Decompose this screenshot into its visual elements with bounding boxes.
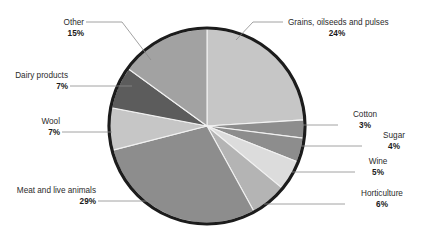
pie-slices-group: [110, 29, 304, 223]
slice-value-sugar: 4%: [388, 142, 401, 151]
slice-label-sugar: Sugar: [383, 131, 405, 140]
pie-chart-figure: Other 15% Grains, oilseeds and pulses 24…: [0, 0, 434, 237]
slice-value-dairy: 7%: [56, 82, 69, 91]
slice-label-wool: Wool: [41, 117, 60, 126]
slice-value-horticulture: 6%: [376, 200, 389, 209]
slice-label-other: Other: [64, 18, 85, 27]
slice-label-wine: Wine: [369, 157, 388, 166]
slice-value-cotton: 3%: [359, 121, 372, 130]
slice-label-grains: Grains, oilseeds and pulses: [288, 18, 389, 27]
pie-chart-canvas: Other 15% Grains, oilseeds and pulses 24…: [0, 0, 434, 237]
slice-value-grains: 24%: [329, 29, 346, 38]
slice-value-wool: 7%: [48, 128, 61, 137]
slice-label-cotton: Cotton: [353, 110, 378, 119]
slice-value-wine: 5%: [372, 168, 385, 177]
slice-value-other: 15%: [68, 29, 85, 38]
slice-value-meat: 29%: [80, 197, 97, 206]
pie-slice[interactable]: [207, 29, 304, 126]
slice-label-meat: Meat and live animals: [17, 186, 96, 195]
slice-label-dairy: Dairy products: [15, 71, 68, 80]
slice-label-horticulture: Horticulture: [361, 189, 403, 198]
